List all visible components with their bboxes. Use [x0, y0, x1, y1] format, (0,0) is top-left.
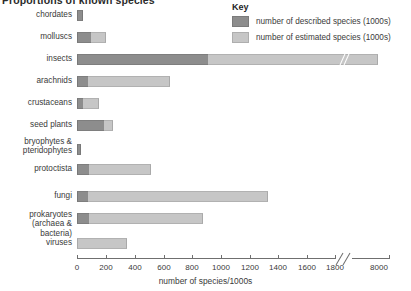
category-sublabel-text: (archaea & bacteria) — [0, 219, 72, 238]
axis-tick-label: 400 — [128, 263, 141, 272]
category-label-arachnids: arachnids — [0, 76, 72, 85]
axis-tick — [192, 255, 193, 259]
axis-title: number of species/1000s — [0, 276, 411, 286]
axis-tick — [335, 255, 336, 259]
bar-crustaceans — [77, 98, 99, 109]
bar-seg-described — [77, 144, 81, 155]
bar-viruses — [77, 238, 127, 249]
axis-tick-label: 8000 — [370, 263, 388, 272]
bar-seg-described — [77, 213, 89, 224]
chart-root: Proportions of known species Key number … — [0, 0, 411, 291]
category-label-fungi: fungi — [0, 191, 72, 200]
bar-seg-estimated — [91, 32, 106, 43]
bar-prokaryotes — [77, 213, 203, 224]
axis-tick-label: 1600 — [298, 263, 316, 272]
axis-tick — [389, 255, 390, 259]
bar-molluscs — [77, 32, 106, 43]
bar-seg-estimated — [89, 213, 203, 224]
bar-seg-described — [77, 10, 83, 21]
category-label-protoctista: protoctista — [0, 164, 72, 173]
x-axis: 0 200 400 600 800 1000 1200 1400 1600 18… — [0, 258, 411, 291]
bar-seg-described — [77, 32, 91, 43]
axis-tick — [307, 255, 308, 259]
category-label-text: insects — [47, 54, 72, 63]
axis-tick — [77, 255, 78, 259]
chart-title: Proportions of known species — [2, 0, 155, 6]
bar-seg-estimated — [88, 76, 170, 87]
category-label-prokaryotes: prokaryotes (archaea & bacteria) — [0, 210, 72, 238]
category-label-text: chordates — [36, 10, 72, 19]
axis-tick — [135, 255, 136, 259]
bar-row-molluscs: molluscs — [0, 32, 411, 54]
bar-arachnids — [77, 76, 170, 87]
category-label-text: prokaryotes — [0, 210, 72, 219]
axis-tick-label: 800 — [185, 263, 198, 272]
bar-seg-described — [77, 120, 104, 131]
bar-seg-estimated — [88, 191, 268, 202]
axis-tick-label: 200 — [99, 263, 112, 272]
bar-seg-described — [77, 76, 88, 87]
category-label-text: protoctista — [34, 164, 72, 173]
axis-tick-label: 600 — [157, 263, 170, 272]
axis-tick-label: 1200 — [241, 263, 259, 272]
bar-seg-estimated — [77, 238, 127, 249]
bar-fungi — [77, 191, 268, 202]
category-label-seed-plants: seed plants — [0, 120, 72, 129]
axis-tick — [106, 255, 107, 259]
category-label-insects: insects — [0, 54, 72, 63]
bar-seg-estimated — [208, 54, 378, 65]
category-label-text: crustaceans — [28, 98, 72, 107]
category-label-text: bryophytes & — [0, 137, 72, 146]
axis-tick — [250, 255, 251, 259]
category-label-text: viruses — [46, 238, 72, 247]
bar-seg-estimated — [89, 164, 151, 175]
category-label-text: arachnids — [36, 76, 72, 85]
bar-row-prokaryotes: prokaryotes (archaea & bacteria) — [0, 213, 411, 235]
bar-seg-described — [77, 191, 88, 202]
axis-tick-label: 0 — [75, 263, 79, 272]
category-label-text: seed plants — [30, 120, 72, 129]
bar-insects — [77, 54, 378, 65]
bar-chordates — [77, 10, 83, 21]
bar-seed-plants — [77, 120, 113, 131]
axis-tick — [278, 255, 279, 259]
bar-seg-described — [77, 54, 208, 65]
axis-tick-label: 1800 — [326, 263, 344, 272]
category-label-text: molluscs — [40, 32, 72, 41]
bar-seg-estimated — [83, 98, 99, 109]
bar-row-arachnids: arachnids — [0, 76, 411, 98]
bar-row-insects: insects — [0, 54, 411, 76]
bar-seg-described — [77, 164, 89, 175]
category-label-crustaceans: crustaceans — [0, 98, 72, 107]
plot-area: chordates molluscs insects — [0, 10, 411, 258]
bar-bryophytes — [77, 144, 81, 155]
bar-row-protoctista: protoctista — [0, 164, 411, 186]
bar-protoctista — [77, 164, 151, 175]
axis-tick-label: 1000 — [212, 263, 230, 272]
bar-row-crustaceans: crustaceans — [0, 98, 411, 120]
bar-row-chordates: chordates — [0, 10, 411, 32]
bar-seg-estimated — [104, 120, 113, 131]
category-label-bryophytes: bryophytes & pteridophytes — [0, 137, 72, 156]
category-label-text: fungi — [54, 191, 72, 200]
axis-tick-label: 1400 — [269, 263, 287, 272]
axis-tick — [164, 255, 165, 259]
category-sublabel-text: pteridophytes — [0, 146, 72, 155]
bar-row-bryophytes: bryophytes & pteridophytes — [0, 140, 411, 162]
category-label-viruses: viruses — [0, 238, 72, 247]
axis-line-main — [77, 258, 335, 259]
category-label-chordates: chordates — [0, 10, 72, 19]
axis-tick — [221, 255, 222, 259]
axis-line-after-break — [352, 258, 390, 259]
category-label-molluscs: molluscs — [0, 32, 72, 41]
